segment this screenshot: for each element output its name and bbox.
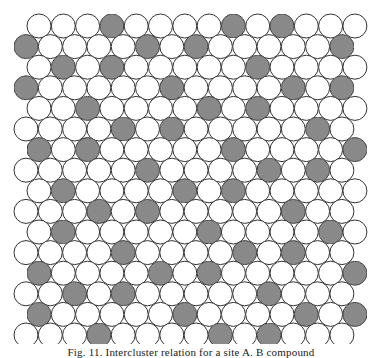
open-site-circle [14,241,38,265]
open-site-circle [63,117,87,141]
circle-grid [14,14,367,344]
open-site-circle [221,261,245,285]
packing-svg [0,0,382,344]
open-site-circle [257,199,281,223]
open-site-circle [330,158,354,182]
open-site-circle [319,302,343,326]
open-site-circle [330,282,354,306]
open-site-circle [149,55,173,79]
shaded-site-circle [343,138,367,162]
shaded-site-circle [281,241,305,265]
open-site-circle [281,35,305,59]
open-site-circle [63,199,87,223]
open-site-circle [184,158,208,182]
open-site-circle [197,302,221,326]
open-site-circle [111,76,135,100]
open-site-circle [27,220,51,244]
open-site-circle [124,302,148,326]
shaded-site-circle [306,158,330,182]
open-site-circle [27,179,51,203]
open-site-circle [294,96,318,120]
open-site-circle [136,323,160,344]
open-site-circle [87,117,111,141]
open-site-circle [197,14,221,38]
open-site-circle [270,138,294,162]
open-site-circle [184,241,208,265]
shaded-site-circle [27,261,51,285]
shaded-site-circle [27,302,51,326]
open-site-circle [14,158,38,182]
open-site-circle [136,76,160,100]
open-site-circle [76,179,100,203]
open-site-circle [306,323,330,344]
shaded-site-circle [197,220,221,244]
open-site-circle [319,138,343,162]
shaded-site-circle [246,96,270,120]
open-site-circle [160,158,184,182]
shaded-site-circle [221,138,245,162]
shaded-site-circle [63,282,87,306]
open-site-circle [87,241,111,265]
shaded-site-circle [319,220,343,244]
shaded-site-circle [87,199,111,223]
open-site-circle [319,55,343,79]
shaded-site-circle [197,261,221,285]
shaded-site-circle [343,302,367,326]
open-site-circle [330,199,354,223]
open-site-circle [221,220,245,244]
open-site-circle [270,220,294,244]
open-site-circle [111,199,135,223]
shaded-site-circle [160,117,184,141]
open-site-circle [111,323,135,344]
shaded-site-circle [173,179,197,203]
shaded-site-circle [136,35,160,59]
shaded-site-circle [208,323,232,344]
open-site-circle [51,138,75,162]
shaded-site-circle [51,179,75,203]
open-site-circle [38,241,62,265]
shaded-site-circle [87,323,111,344]
open-site-circle [76,261,100,285]
open-site-circle [38,35,62,59]
open-site-circle [221,55,245,79]
open-site-circle [51,261,75,285]
open-site-circle [246,179,270,203]
open-site-circle [208,76,232,100]
shaded-site-circle [270,14,294,38]
shaded-site-circle [76,96,100,120]
open-site-circle [149,138,173,162]
open-site-circle [343,96,367,120]
open-site-circle [208,35,232,59]
open-site-circle [281,158,305,182]
shaded-site-circle [330,35,354,59]
open-site-circle [63,76,87,100]
open-site-circle [136,282,160,306]
open-site-circle [270,179,294,203]
shaded-site-circle [221,14,245,38]
open-site-circle [38,76,62,100]
shaded-site-circle [294,302,318,326]
open-site-circle [294,261,318,285]
circle-packing-diagram [0,0,382,344]
open-site-circle [51,14,75,38]
open-site-circle [38,323,62,344]
open-site-circle [173,261,197,285]
open-site-circle [173,220,197,244]
open-site-circle [343,220,367,244]
open-site-circle [173,14,197,38]
open-site-circle [160,35,184,59]
open-site-circle [100,261,124,285]
open-site-circle [281,117,305,141]
shaded-site-circle [160,76,184,100]
open-site-circle [136,117,160,141]
shaded-site-circle [257,282,281,306]
open-site-circle [233,199,257,223]
open-site-circle [319,261,343,285]
open-site-circle [330,241,354,265]
open-site-circle [100,138,124,162]
open-site-circle [136,241,160,265]
open-site-circle [233,158,257,182]
open-site-circle [343,14,367,38]
open-site-circle [76,55,100,79]
open-site-circle [63,241,87,265]
